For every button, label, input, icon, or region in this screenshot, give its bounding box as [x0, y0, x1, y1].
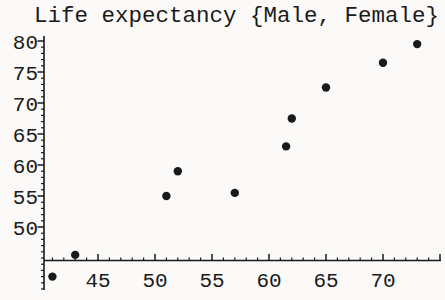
x-axis-tick-label: 50: [142, 270, 167, 293]
data-point: [162, 192, 170, 200]
data-point: [413, 40, 421, 48]
x-axis-tick-label: 60: [256, 270, 281, 293]
scatter-plot-canvas: 45505560657050556065707580: [0, 0, 445, 300]
data-point: [288, 114, 296, 122]
y-axis-tick-label: 80: [13, 32, 38, 55]
y-axis-tick-label: 55: [13, 187, 38, 210]
y-axis-tick-label: 65: [13, 125, 38, 148]
data-point: [48, 272, 56, 280]
data-point: [174, 167, 182, 175]
y-axis-tick-label: 60: [13, 156, 38, 179]
y-axis-tick-label: 70: [13, 94, 38, 117]
y-axis-tick-label: 75: [13, 63, 38, 86]
data-point: [322, 83, 330, 91]
data-point: [282, 142, 290, 150]
life-expectancy-scatter-figure: Life expectancy {Male, Female} 455055606…: [0, 0, 445, 300]
y-axis-tick-label: 50: [13, 218, 38, 241]
data-point: [231, 189, 239, 197]
x-axis-tick-label: 55: [199, 270, 224, 293]
x-axis-tick-label: 65: [313, 270, 338, 293]
data-point: [71, 251, 79, 259]
data-point: [379, 59, 387, 67]
x-axis-tick-label: 45: [85, 270, 110, 293]
x-axis-tick-label: 70: [370, 270, 395, 293]
